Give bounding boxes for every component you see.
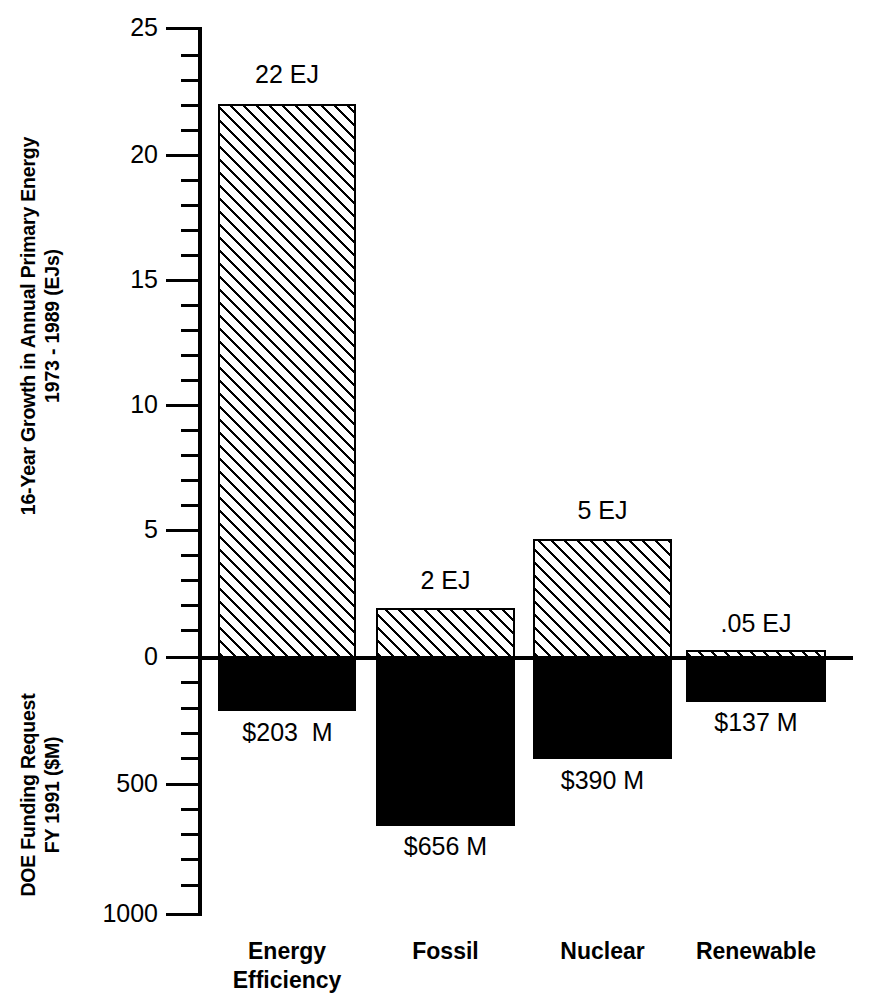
upper-axis-minor-tick — [181, 454, 199, 457]
upper-axis-minor-tick — [181, 629, 199, 632]
bar-positive-nuclear[interactable] — [533, 539, 672, 658]
category-label-renewable: Renewable — [676, 937, 836, 966]
upper-axis-ticklabel-20: 20 — [38, 142, 158, 167]
upper-axis-minor-tick — [181, 129, 199, 132]
lower-axis-ticklabel-500: 500 — [38, 771, 158, 796]
upper-axis-minor-tick — [181, 104, 199, 107]
zero-baseline — [198, 656, 853, 660]
upper-axis-major-tick-15 — [166, 279, 199, 282]
lower-axis-minor-tick — [181, 808, 199, 811]
data-label-funding-fossil: $656 M — [366, 834, 525, 859]
upper-axis-minor-tick — [181, 304, 199, 307]
upper-axis-minor-tick — [181, 429, 199, 432]
category-label-line1: Energy — [208, 937, 366, 966]
category-label-energy-efficiency: Energy Efficiency — [208, 937, 366, 994]
data-label-ej-renewable: .05 EJ — [676, 611, 836, 636]
upper-axis-major-tick-10 — [166, 404, 199, 407]
upper-axis-major-tick-25 — [166, 27, 199, 30]
axis-major-tick-0 — [166, 656, 199, 659]
upper-axis-minor-tick — [181, 354, 199, 357]
lower-axis-minor-tick — [181, 707, 199, 710]
lower-axis-ticklabel-1000: 1000 — [38, 901, 158, 926]
upper-axis-minor-tick — [181, 229, 199, 232]
upper-axis-ticklabel-25: 25 — [38, 15, 158, 40]
lower-axis-minor-tick — [181, 757, 199, 760]
upper-axis-minor-tick — [181, 179, 199, 182]
upper-axis-minor-tick — [181, 79, 199, 82]
bar-positive-fossil[interactable] — [376, 608, 515, 658]
upper-axis-minor-tick — [181, 554, 199, 557]
lower-axis-minor-tick — [181, 681, 199, 684]
category-label-line1: Renewable — [676, 937, 836, 966]
chart-canvas: 16-Year Growth in Annual Primary Energy … — [0, 0, 871, 994]
data-label-funding-energy-efficiency: $203 M — [205, 720, 370, 745]
category-label-line2: Efficiency — [208, 966, 366, 994]
category-label-fossil: Fossil — [366, 937, 525, 966]
data-label-ej-fossil: 2 EJ — [366, 568, 525, 593]
lower-axis-minor-tick — [181, 858, 199, 861]
bar-negative-nuclear[interactable] — [533, 658, 672, 759]
upper-axis-minor-tick — [181, 204, 199, 207]
lower-axis-major-tick-1000 — [166, 913, 199, 916]
bar-negative-energy-efficiency[interactable] — [218, 658, 356, 711]
data-label-ej-energy-efficiency: 22 EJ — [208, 62, 366, 87]
upper-axis-ticklabel-15: 15 — [38, 267, 158, 292]
upper-axis-ticklabel-5: 5 — [38, 517, 158, 542]
lower-axis-minor-tick — [181, 884, 199, 887]
category-label-nuclear: Nuclear — [523, 937, 682, 966]
category-label-line1: Nuclear — [523, 937, 682, 966]
upper-axis-minor-tick — [181, 379, 199, 382]
upper-axis-ticklabel-10: 10 — [38, 392, 158, 417]
upper-axis-minor-tick — [181, 54, 199, 57]
upper-axis-minor-tick — [181, 254, 199, 257]
bar-negative-fossil[interactable] — [376, 658, 515, 826]
upper-axis-title-line1: 16-Year Growth in Annual Primary Energy — [16, 26, 40, 626]
upper-axis-minor-tick — [181, 579, 199, 582]
lower-axis-minor-tick — [181, 732, 199, 735]
upper-axis-minor-tick — [181, 604, 199, 607]
lower-axis-major-tick-500 — [166, 783, 199, 786]
data-label-ej-nuclear: 5 EJ — [523, 498, 682, 523]
upper-axis-minor-tick — [181, 329, 199, 332]
data-label-funding-nuclear: $390 M — [523, 768, 682, 793]
upper-axis-minor-tick — [181, 479, 199, 482]
upper-axis-major-tick-20 — [166, 154, 199, 157]
upper-axis-minor-tick — [181, 504, 199, 507]
bar-negative-renewable[interactable] — [686, 658, 826, 702]
upper-axis-major-tick-5 — [166, 529, 199, 532]
bar-positive-energy-efficiency[interactable] — [218, 104, 356, 658]
axis-ticklabel-0: 0 — [38, 644, 158, 669]
data-label-funding-renewable: $137 M — [676, 710, 836, 735]
lower-axis-title-line1: DOE Funding Request — [16, 660, 40, 930]
category-label-line1: Fossil — [366, 937, 525, 966]
lower-axis-minor-tick — [181, 833, 199, 836]
